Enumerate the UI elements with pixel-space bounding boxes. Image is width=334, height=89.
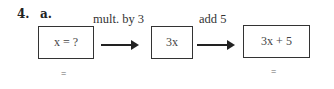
op-add-label: add 5 (199, 12, 226, 27)
result-box: 3x + 5 (243, 25, 310, 58)
middle-box: 3x (151, 26, 193, 59)
problem-part: a. (40, 7, 52, 21)
result-equals: = (271, 66, 276, 76)
op-multiply-label: mult. by 3 (93, 12, 144, 27)
arrow-right-icon (197, 44, 233, 46)
start-box: x = ? (38, 26, 94, 59)
problem-number: 4. (17, 7, 30, 21)
start-box-text: x = ? (54, 35, 78, 50)
middle-box-text: 3x (166, 35, 178, 50)
arrow-right-icon (101, 44, 137, 46)
result-box-text: 3x + 5 (261, 34, 292, 49)
start-equals: = (61, 68, 66, 78)
